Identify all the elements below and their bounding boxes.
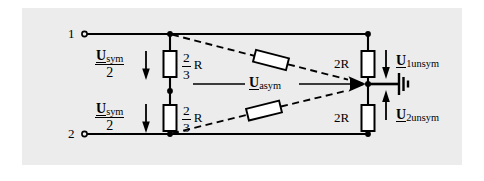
coupling-lower-segment-b [281, 90, 348, 106]
u-sym-upper-denominator: 2 [95, 65, 124, 81]
u1-unsym-subscript: 1unsym [406, 58, 439, 69]
u1-unsym-symbol: U [396, 54, 406, 68]
resistor-lower-left-numerator: 2 [182, 104, 191, 120]
u-sym-lower-label: Usym 2 [95, 101, 124, 134]
coupling-resistor-lower [246, 101, 282, 121]
resistor-lower-right-label: 2R [334, 111, 349, 124]
resistor-upper-right-label: 2R [334, 57, 349, 70]
u-sym-lower-denominator: 2 [95, 118, 124, 134]
terminal-2-label: 2 [68, 127, 75, 140]
resistor-upper-left-fraction: 2 3 [182, 51, 191, 82]
u-asym-label: Uasym [249, 76, 281, 92]
resistor-lower-left-body [164, 105, 177, 131]
u1-unsym-arrowhead [382, 67, 390, 79]
resistor-upper-left-label: 2 3 R [182, 51, 202, 82]
u-sym-upper-label: Usym 2 [95, 48, 124, 81]
resistor-lower-left-denominator: 3 [182, 120, 191, 135]
u2-unsym-symbol: U [396, 108, 406, 122]
u-sym-upper-numerator: Usym [95, 48, 124, 65]
resistor-upper-left-denominator: 3 [182, 67, 191, 82]
resistor-lower-right-body [362, 105, 375, 131]
u2-unsym-arrowhead [382, 90, 390, 102]
u-asym-subscript: asym [259, 80, 281, 91]
junction-mid-left [167, 88, 173, 94]
u-sym-upper-fraction: Usym 2 [95, 48, 124, 81]
resistor-upper-left-body [164, 51, 177, 77]
u-sym-upper-subscript: sym [106, 53, 123, 64]
u-sym-lower-fraction: Usym 2 [95, 101, 124, 134]
u-sym-upper-arrowhead [142, 69, 150, 81]
resistor-lower-left-fraction: 2 3 [182, 104, 191, 135]
u-sym-lower-subscript: sym [106, 106, 123, 117]
resistor-lower-left-label: 2 3 R [182, 104, 202, 135]
u2-unsym-label: U2unsym [396, 108, 439, 124]
u2-unsym-subscript: 2unsym [406, 112, 439, 123]
terminal-2-node [82, 131, 87, 136]
u1-unsym-label: U1unsym [396, 54, 439, 70]
u-sym-lower-arrowhead [142, 122, 150, 134]
u-sym-upper-symbol: U [96, 49, 106, 63]
junction-top-right [365, 31, 371, 37]
figure-root: 1 2 Usym 2 Usym 2 2 3 R 2 3 R Uasym 2R 2… [0, 0, 484, 181]
terminal-1-label: 1 [68, 27, 75, 40]
junction-bottom-right [365, 131, 371, 137]
u-sym-lower-numerator: Usym [95, 101, 124, 118]
u-asym-symbol: U [249, 76, 259, 90]
u-asym-arrowhead [350, 79, 366, 90]
resistor-upper-right-body [362, 51, 375, 77]
resistor-upper-left-numerator: 2 [182, 51, 191, 67]
u-sym-lower-symbol: U [96, 102, 106, 116]
resistor-upper-left-unit: R [194, 57, 203, 72]
coupling-resistor-upper [253, 50, 289, 70]
terminal-1-node [82, 31, 87, 36]
resistor-lower-left-unit: R [194, 110, 203, 125]
